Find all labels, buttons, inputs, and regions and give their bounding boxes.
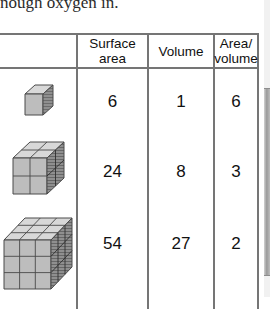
cell-area-volume-row3: 2: [215, 229, 257, 259]
cell-area-volume-row1: 6: [215, 87, 257, 117]
column-header-volume: Volume: [149, 35, 213, 67]
column-header-area-volume: Area/ volume: [215, 35, 257, 67]
cell-surface-area-row3: 54: [78, 229, 147, 259]
vertical-scrollbar-thumb[interactable]: [264, 88, 270, 276]
cell-area-volume-row2: 3: [215, 157, 257, 187]
column-header-surface-area-line1: Surface: [89, 36, 136, 51]
cell-surface-area-row1: 6: [78, 87, 147, 117]
column-header-area-volume-line2: volume: [214, 51, 258, 66]
table-header-rule: [0, 67, 259, 69]
table-right-border: [257, 33, 259, 309]
column-header-area-volume-line1: Area/: [220, 36, 252, 51]
cube-figure-2x2x2: [2, 131, 76, 206]
cell-surface-area-row2: 24: [78, 157, 147, 187]
cell-volume-row3: 27: [149, 229, 213, 259]
surface-area-volume-table: Surface area Volume Area/ volume 6 1 6: [0, 33, 259, 309]
intro-text-fragment: nough oxygen in.: [0, 0, 230, 13]
cell-volume-row2: 8: [149, 157, 213, 187]
cube-3x3x3-icon: [2, 213, 76, 295]
cube-2x2x2-icon: [10, 138, 68, 200]
cube-figure-3x3x3: [2, 206, 76, 301]
column-header-surface-area: Surface area: [78, 35, 147, 67]
cube-figure-1x1x1: [2, 73, 76, 131]
cell-volume-row1: 1: [149, 87, 213, 117]
cube-1x1x1-icon: [21, 82, 57, 122]
column-header-volume-line1: Volume: [158, 44, 203, 59]
column-header-surface-area-line2: area: [99, 51, 126, 66]
